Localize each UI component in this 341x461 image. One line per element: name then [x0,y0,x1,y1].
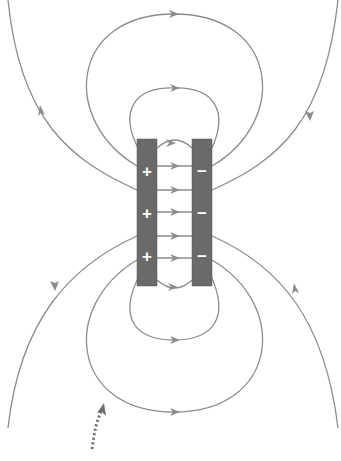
minus-sign: − [197,204,207,223]
plus-sign: + [142,247,152,266]
minus-sign: − [197,162,207,181]
capacitor-field-diagram: + + + − − − [0,0,341,461]
interior-field-lines [157,139,192,291]
bottom-field-loops [8,236,338,428]
plus-sign: + [142,162,152,181]
plus-sign: + [142,204,152,223]
minus-sign: − [197,247,207,266]
top-field-loops [8,0,338,190]
dotted-pointer-arrow-icon [92,403,106,449]
negative-plate: − − − [192,139,212,286]
positive-plate: + + + [137,139,157,286]
